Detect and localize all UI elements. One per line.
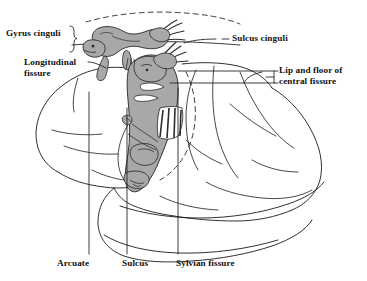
label-lip-and-floor-of-central-fissure: Lip and floor ofcentral fissure: [279, 65, 342, 87]
label-sulcus-cinguli: Sulcus cinguli: [232, 33, 288, 44]
lip-floor-bracket: [274, 71, 278, 83]
label-sylvian-fissure: Sylvian fissure: [176, 258, 235, 269]
gyrus-cinguli-brace: [70, 26, 77, 52]
label-arcuate: Arcuate: [57, 258, 89, 269]
anatomy-figure: Gyrus cinguli Sulcus cinguli Longitudina…: [0, 0, 367, 281]
label-longitudinal-fissure-line1: Longitudinal: [24, 57, 76, 67]
label-sulcus: Sulcus: [122, 258, 148, 269]
brain-sulci: [52, 66, 312, 210]
label-lip-floor-line2: central fissure: [279, 76, 336, 86]
striped-trunk-band: [157, 107, 182, 140]
label-lip-floor-line1: Lip and floor of: [279, 65, 342, 75]
label-gyrus-cinguli: Gyrus cinguli: [6, 28, 61, 39]
label-longitudinal-fissure: Longitudinalfissure: [24, 57, 76, 79]
lip-floor-hook: [244, 72, 262, 83]
brain-diagram-svg: [0, 0, 367, 281]
label-longitudinal-fissure-line2: fissure: [24, 68, 51, 78]
